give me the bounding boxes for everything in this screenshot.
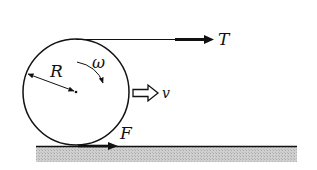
ground [36, 147, 297, 163]
physics-diagram: T F v R ω [0, 0, 317, 170]
tension-arrowhead-icon [204, 35, 214, 44]
cylinder-center [75, 91, 78, 94]
velocity-label: v [162, 85, 170, 101]
friction-label: F [119, 123, 133, 143]
radius-label: R [49, 61, 63, 81]
tension-label: T [218, 29, 231, 49]
angular-velocity-label: ω [92, 53, 105, 72]
velocity-arrow-icon [133, 85, 158, 101]
ground-hatch [36, 147, 297, 162]
